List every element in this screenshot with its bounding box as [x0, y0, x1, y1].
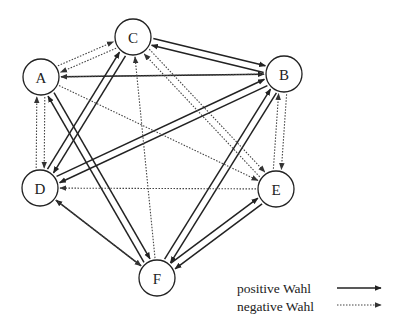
edge-negative-a-to-c [58, 42, 113, 66]
edge-positive-e-to-f [175, 204, 262, 269]
node-d: D [22, 170, 58, 206]
edge-positive-c-to-b [153, 38, 265, 65]
edge-negative-e-to-d [60, 188, 256, 189]
node-label: C [128, 30, 138, 46]
node-b: B [266, 56, 302, 92]
legend-positive-label: positive Wahl [237, 281, 311, 296]
edge-positive-b-to-f [171, 93, 277, 263]
node-f: F [139, 260, 175, 296]
edge-negative-e-to-c [144, 54, 260, 177]
edge-negative-a-to-d [44, 97, 45, 168]
edge-negative-f-to-c [135, 57, 155, 258]
legend: positive Wahl negative Wahl [237, 281, 381, 314]
node-c: C [115, 19, 151, 55]
node-label: D [35, 181, 46, 197]
edge-negative-c-to-a [61, 48, 116, 72]
edge-positive-a-to-f [54, 93, 150, 259]
node-label: B [279, 67, 289, 83]
node-label: E [271, 182, 280, 198]
edge-positive-f-to-e [171, 198, 258, 263]
node-label: F [153, 271, 161, 287]
edge-negative-d-to-a [36, 97, 37, 168]
node-label: A [36, 70, 47, 86]
legend-negative-label: negative Wahl [237, 299, 314, 314]
nodes-layer: ABCDEF [22, 19, 302, 296]
node-a: A [23, 59, 59, 95]
node-e: E [258, 171, 294, 207]
edge-positive-f-to-b [165, 89, 271, 259]
sociogram-diagram: ABCDEF positive Wahl negative Wahl [0, 0, 409, 323]
edge-negative-b-to-e [281, 94, 286, 169]
edge-positive-b-to-c [152, 45, 264, 72]
edges-layer [36, 38, 286, 268]
edge-negative-e-to-b [273, 94, 278, 169]
edge-negative-c-to-e [149, 49, 264, 172]
edge-positive-f-to-a [48, 96, 144, 262]
